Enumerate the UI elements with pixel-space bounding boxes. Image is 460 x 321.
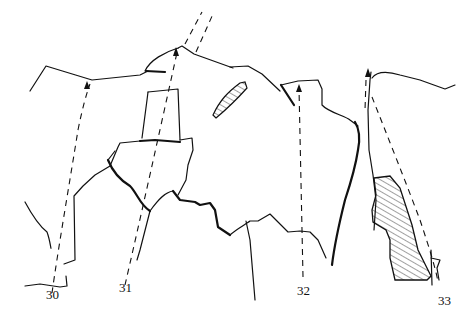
route-label-30: 30 xyxy=(46,287,59,303)
arrowheads xyxy=(84,47,371,92)
central-dome xyxy=(230,66,359,300)
route-label-33: 33 xyxy=(438,293,451,309)
central-pillar xyxy=(64,89,230,264)
lower-left-rock xyxy=(25,202,67,287)
route-31-top-line-b xyxy=(196,14,213,52)
route-lines xyxy=(52,12,438,293)
arrow-up-icon xyxy=(296,84,302,92)
route-32-line xyxy=(299,88,303,277)
left-rock-outline xyxy=(30,46,233,91)
hatched-flake-top xyxy=(213,82,247,118)
route-topo-drawing xyxy=(0,0,460,321)
route-31-top-line-a xyxy=(185,12,202,44)
route-label-32: 32 xyxy=(297,283,310,299)
route-33-left-line xyxy=(365,80,366,110)
right-wall xyxy=(368,72,455,285)
route-31-line xyxy=(125,48,178,285)
arrow-up-icon xyxy=(365,68,371,77)
route-label-31: 31 xyxy=(119,280,132,296)
